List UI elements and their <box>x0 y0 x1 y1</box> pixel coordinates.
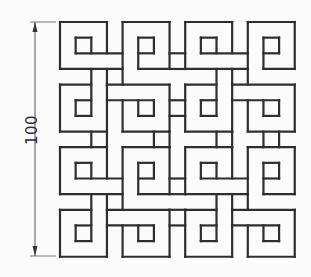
knot-pattern <box>60 22 295 257</box>
arrow-down-icon <box>33 246 38 256</box>
dimension-value: 100 <box>23 115 41 145</box>
arrow-up-icon <box>33 22 38 32</box>
dimension-label: 100 <box>22 108 42 152</box>
knot-diagram <box>0 0 311 277</box>
